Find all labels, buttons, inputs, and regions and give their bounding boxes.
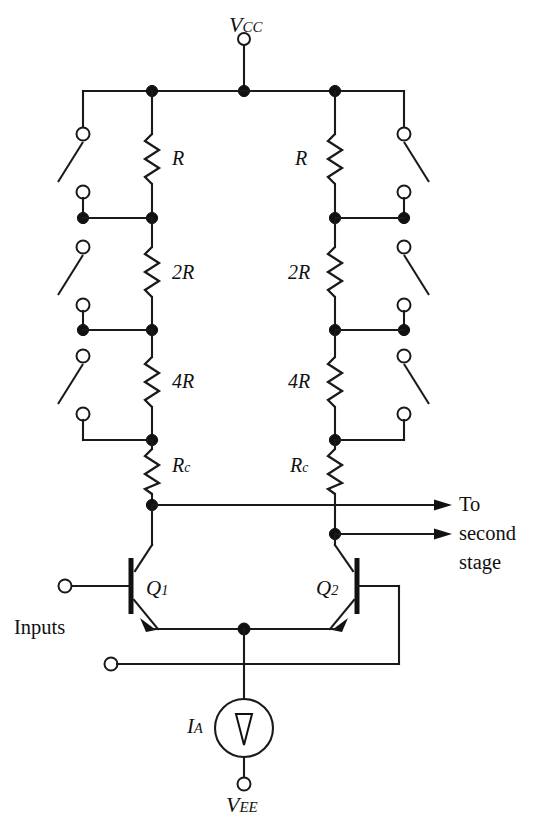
right-resistor-Rc	[328, 449, 342, 494]
left-switch-2-blade[interactable]	[58, 255, 83, 295]
left-resistor-2R-label: 2R	[172, 262, 194, 282]
left-resistor-Rc-label: Rc	[172, 455, 190, 475]
q1-collector-wire-diagonal	[135, 545, 152, 571]
right-resistor-R-label: R	[295, 148, 307, 168]
left-resistor-Rc	[145, 449, 159, 494]
left-switch-column	[58, 128, 152, 441]
left-resistor-R	[145, 134, 159, 184]
right-output-arrow-icon	[434, 529, 452, 540]
left-resistor-ladder	[145, 91, 159, 505]
left-resistor-R-label: R	[172, 148, 184, 168]
right-resistor-R	[328, 134, 342, 184]
right-switch-3-top-contact[interactable]	[398, 350, 411, 363]
output-to-second-stage-group	[146, 499, 452, 539]
output-label-line-3: stage	[459, 552, 501, 573]
vcc-label: VCC	[229, 14, 262, 36]
right-switch-1-top-contact[interactable]	[398, 128, 411, 141]
input-terminal-2[interactable]	[105, 658, 118, 671]
transistor-q1	[71, 505, 244, 632]
vee-label: VEE	[226, 794, 258, 816]
current-source-group	[215, 623, 273, 791]
vcc-supply-group	[238, 33, 250, 97]
left-resistor-4R	[145, 357, 159, 407]
vee-terminal-icon[interactable]	[238, 778, 251, 791]
right-resistor-4R	[328, 357, 342, 407]
left-switch-2-top-contact[interactable]	[77, 241, 90, 254]
right-resistor-ladder	[328, 91, 342, 534]
left-resistor-4R-label: 4R	[172, 371, 194, 391]
input-terminal-1[interactable]	[59, 580, 72, 593]
right-resistor-2R-label: 2R	[288, 262, 310, 282]
schematic-canvas	[0, 0, 534, 818]
output-label-line-1: To	[459, 494, 480, 515]
right-resistor-Rc-label: Rc	[290, 455, 308, 475]
right-switch-1-blade[interactable]	[404, 142, 429, 182]
left-resistor-2R	[145, 247, 159, 297]
left-switch-1-top-contact[interactable]	[77, 128, 90, 141]
right-resistor-2R	[328, 247, 342, 297]
left-switch-1-blade[interactable]	[58, 142, 83, 182]
left-switch-3-bottom-contact[interactable]	[77, 408, 90, 421]
q2-collector-wire-diagonal	[335, 545, 353, 571]
left-switch-2-bottom-contact[interactable]	[77, 299, 90, 312]
input-terminals-group	[59, 580, 400, 671]
q2-label: Q2	[316, 578, 338, 599]
right-resistor-4R-label: 4R	[288, 371, 310, 391]
right-switch-1-bottom-contact[interactable]	[398, 186, 411, 199]
inputs-label: Inputs	[14, 617, 65, 638]
top-rail-group	[83, 85, 404, 128]
left-output-arrow-icon	[434, 500, 452, 511]
right-switch-3-blade[interactable]	[404, 364, 429, 404]
q1-label: Q1	[146, 578, 168, 599]
right-switch-3-bottom-contact[interactable]	[398, 408, 411, 421]
right-switch-2-top-contact[interactable]	[398, 241, 411, 254]
left-switch-3-top-contact[interactable]	[77, 350, 90, 363]
circuit-diagram: VCC R 2R 4R Rc R 2R 4R Rc Q1 Q2 Inputs T…	[0, 0, 534, 818]
right-switch-column	[335, 128, 429, 441]
right-switch-2-bottom-contact[interactable]	[398, 299, 411, 312]
left-switch-3-blade[interactable]	[58, 364, 83, 404]
left-switch-1-bottom-contact[interactable]	[77, 186, 90, 199]
current-source-label: IA	[187, 716, 203, 737]
output-label-line-2: second	[459, 523, 516, 544]
right-switch-2-blade[interactable]	[404, 255, 429, 295]
